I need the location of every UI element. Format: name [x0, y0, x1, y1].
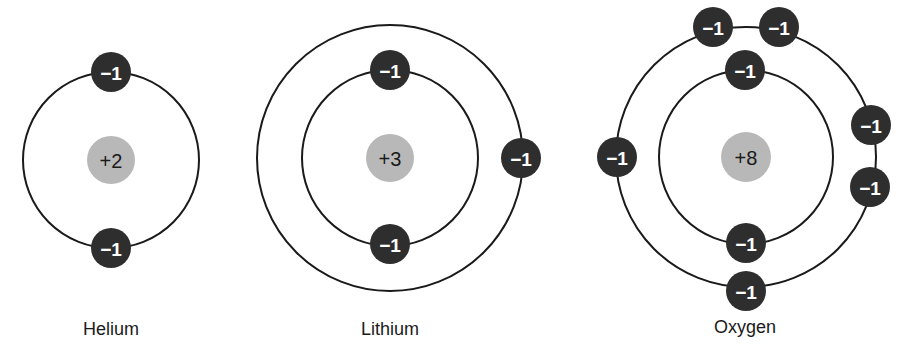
atomic-models-diagram: +2−1−1+3−1−1−1+8−1−1−1−1−1−1−1−1	[0, 0, 907, 360]
electron: −1	[597, 137, 637, 177]
electron: −1	[725, 50, 765, 90]
oxygen-label: Oxygen	[714, 317, 776, 338]
nucleus-charge: +8	[735, 147, 758, 169]
electron: −1	[370, 224, 410, 264]
electron-charge: −1	[510, 149, 532, 170]
electron: −1	[91, 228, 131, 268]
electron-charge: −1	[379, 61, 401, 82]
electron-charge: −1	[735, 234, 757, 255]
electron: −1	[370, 50, 410, 90]
electron: −1	[726, 223, 766, 263]
oxygen-atom: +8−1−1−1−1−1−1−1−1	[597, 7, 891, 311]
electron-charge: −1	[606, 148, 628, 169]
electron: −1	[91, 52, 131, 92]
electron: −1	[501, 138, 541, 178]
electron-charge: −1	[860, 116, 882, 137]
electron-charge: −1	[768, 18, 790, 39]
electron-charge: −1	[859, 178, 881, 199]
electron: −1	[693, 7, 733, 47]
helium-label: Helium	[83, 319, 139, 340]
helium-atom: +2−1−1	[23, 52, 199, 268]
lithium-label: Lithium	[361, 319, 419, 340]
nucleus-charge: +3	[379, 148, 402, 170]
electron-charge: −1	[100, 63, 122, 84]
oxygen-nucleus: +8	[721, 132, 771, 182]
electron-charge: −1	[735, 282, 757, 303]
electron-charge: −1	[734, 61, 756, 82]
lithium-nucleus: +3	[366, 134, 414, 182]
electron: −1	[850, 167, 890, 207]
lithium-atom: +3−1−1−1	[257, 25, 541, 291]
electron-charge: −1	[100, 239, 122, 260]
helium-nucleus: +2	[87, 136, 135, 184]
electron-charge: −1	[702, 18, 724, 39]
nucleus-charge: +2	[100, 150, 123, 172]
electron-charge: −1	[379, 235, 401, 256]
electron: −1	[726, 271, 766, 311]
electron: −1	[851, 105, 891, 145]
electron: −1	[759, 7, 799, 47]
